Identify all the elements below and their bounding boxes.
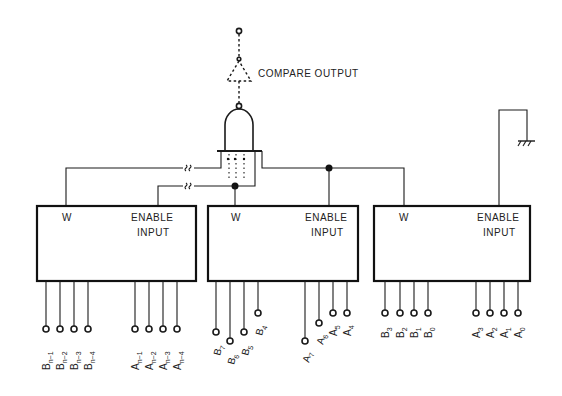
compare-output-section: COMPARE OUTPUT: [227, 28, 359, 104]
pin-label-b: Bn−2: [55, 351, 68, 370]
pin-terminal-icon: [132, 326, 138, 332]
pin-terminal-icon: [255, 310, 261, 316]
comparator-cascade-diagram: COMPARE OUTPUT: [0, 0, 562, 396]
ground-icon: [518, 141, 535, 146]
w-label: W: [399, 212, 409, 223]
pin-label-a: An−1: [130, 351, 143, 370]
pin-terminal-icon: [213, 329, 219, 335]
pin-terminal-icon: [174, 326, 180, 332]
pin-label-b: Bn−1: [41, 351, 54, 370]
compare-output-label: COMPARE OUTPUT: [258, 68, 359, 79]
pin-terminal-icon: [501, 310, 507, 316]
pin-label-b: B7: [211, 343, 226, 357]
pin-label-b: B4: [253, 323, 268, 337]
pin-label-a: A1: [499, 327, 512, 338]
pin-terminal-icon: [160, 326, 166, 332]
enable-label: ENABLE: [305, 212, 347, 223]
pin-terminal-icon: [227, 338, 233, 344]
pin-label-a: An−3: [158, 351, 171, 370]
pin-label-b: B0: [423, 327, 436, 338]
pin-label-a: A5: [328, 325, 341, 336]
nand-output-bubble-icon: [236, 103, 241, 108]
pin-label-b: B5: [239, 343, 254, 357]
pin-terminal-icon: [473, 310, 479, 316]
pin-terminal-icon: [316, 320, 322, 326]
pin-terminal-icon: [43, 326, 49, 332]
enable-label-line2: INPUT: [137, 227, 170, 238]
pin-terminal-icon: [330, 310, 336, 316]
pin-terminal-icon: [515, 310, 521, 316]
w-label: W: [231, 212, 241, 223]
pin-label-a: A3: [471, 327, 484, 338]
buffer-triangle-icon: [227, 61, 251, 81]
pin-terminal-icon: [146, 326, 152, 332]
enable-label-line2: INPUT: [483, 227, 516, 238]
pin-label-a: A4: [342, 325, 355, 336]
pin-label-b: B2: [395, 327, 408, 338]
pin-label-b: B1: [409, 327, 422, 338]
enable-label: ENABLE: [477, 212, 519, 223]
pin-label-b: B3: [380, 327, 393, 338]
pin-terminal-icon: [85, 326, 91, 332]
pin-label-a: A2: [485, 327, 498, 338]
pin-label-a: A7: [300, 350, 315, 364]
pin-terminal-icon: [411, 310, 417, 316]
pin-label-b: Bn−3: [69, 351, 82, 370]
wire-break-icon: [185, 165, 191, 171]
pin-terminal-icon: [397, 310, 403, 316]
pin-terminal-icon: [241, 329, 247, 335]
enable-label-line2: INPUT: [311, 227, 344, 238]
wiring: [66, 110, 527, 205]
pin-terminal-icon: [382, 310, 388, 316]
wire-break-icon: [185, 183, 191, 189]
comparator-block-msb: W ENABLE INPUT Bn−1 Bn−2 Bn−3 Bn−4 An−1 …: [37, 206, 196, 370]
w-label: W: [62, 212, 72, 223]
comparator-block-mid: W ENABLE INPUT B7 B6 B5 B4 A7 A6 A5 A4: [208, 206, 358, 366]
pin-label-b: Bn−4: [83, 351, 96, 370]
pin-terminal-icon: [487, 310, 493, 316]
pin-terminal-icon: [71, 326, 77, 332]
pin-label-a: A0: [513, 327, 526, 338]
comparator-block-lsb: W ENABLE INPUT B3 B2 B1 B0 A3 A2 A1 A0: [374, 206, 530, 338]
pin-terminal-icon: [344, 310, 350, 316]
output-terminal-icon: [236, 28, 241, 33]
pin-terminal-icon: [425, 310, 431, 316]
pin-terminal-icon: [57, 326, 63, 332]
pin-label-a: An−2: [144, 351, 157, 370]
enable-label: ENABLE: [131, 212, 173, 223]
pin-terminal-icon: [302, 338, 308, 344]
pin-label-a: An−4: [172, 351, 185, 370]
